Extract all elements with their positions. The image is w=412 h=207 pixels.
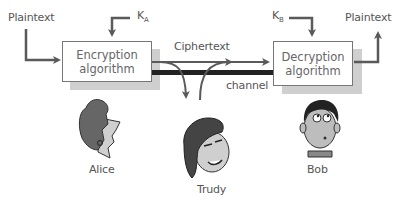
trudy-face-icon <box>184 118 229 178</box>
alice-face-icon <box>79 99 120 158</box>
bob-face-icon <box>300 100 340 157</box>
trudy-label: Trudy <box>197 183 226 196</box>
alice-label: Alice <box>89 163 114 176</box>
characters-art <box>0 0 412 207</box>
bob-label: Bob <box>307 163 328 176</box>
